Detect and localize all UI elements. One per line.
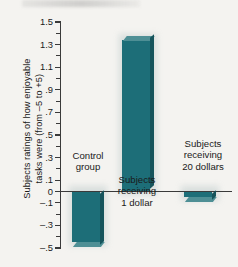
category-label-line: receiving bbox=[168, 149, 238, 160]
y-axis-minor-tick bbox=[56, 55, 60, 56]
y-axis-tick bbox=[55, 21, 61, 22]
y-axis-tick-label: 1.1 bbox=[40, 62, 53, 71]
bar bbox=[72, 192, 100, 243]
category-label-line: receiving bbox=[104, 185, 170, 196]
category-label: Subjectsreceiving1 dollar bbox=[104, 174, 170, 208]
bar-chart-figure: Subjects ratings of how enjoyable tasks … bbox=[0, 0, 238, 267]
y-axis-title-line-1: Subjects ratings of how enjoyable bbox=[22, 14, 34, 244]
y-axis-tick bbox=[55, 134, 61, 135]
y-axis-tick-label: .1 bbox=[45, 175, 53, 184]
bar-front-face bbox=[72, 192, 100, 243]
y-axis-tick-label: –.1 bbox=[40, 198, 53, 207]
y-axis-minor-tick bbox=[56, 78, 60, 79]
y-axis-tick bbox=[55, 112, 61, 113]
category-label: Subjectsreceiving20 dollars bbox=[168, 138, 238, 172]
y-axis-tick bbox=[55, 247, 61, 248]
y-axis-tick-label: 1.3 bbox=[40, 40, 53, 49]
y-axis-tick bbox=[55, 67, 61, 68]
y-axis-minor-tick bbox=[56, 123, 60, 124]
category-label-line: 20 dollars bbox=[168, 161, 238, 172]
y-axis-tick bbox=[55, 44, 61, 45]
bar bbox=[184, 192, 212, 198]
category-label-line: Control bbox=[56, 150, 120, 161]
category-label-line: 1 dollar bbox=[104, 197, 170, 208]
category-label: Controlgroup bbox=[56, 150, 120, 173]
y-axis-tick-label: –.5 bbox=[40, 243, 53, 252]
y-axis-tick-label: .9 bbox=[45, 85, 53, 94]
y-axis-minor-tick bbox=[56, 236, 60, 237]
bar bbox=[122, 40, 150, 191]
category-label-line: group bbox=[56, 161, 120, 172]
category-label-line: Subjects bbox=[104, 174, 170, 185]
y-axis-tick-label: .3 bbox=[45, 153, 53, 162]
y-axis-tick bbox=[55, 89, 61, 90]
scan-artifact bbox=[22, 0, 140, 7]
y-axis-tick bbox=[55, 202, 61, 203]
y-axis-minor-tick bbox=[56, 214, 60, 215]
bar-side-face bbox=[150, 34, 154, 189]
y-axis-tick-label: –.3 bbox=[40, 221, 53, 230]
y-axis-minor-tick bbox=[56, 101, 60, 102]
y-axis-minor-tick bbox=[56, 146, 60, 147]
plot-area: 1.51.31.1.9.7.5.3.10–.1–.3–.5Controlgrou… bbox=[60, 22, 232, 248]
y-axis-tick-label: .5 bbox=[45, 130, 53, 139]
bar-front-face bbox=[122, 40, 150, 191]
y-axis-tick bbox=[55, 180, 61, 181]
y-axis-tick bbox=[55, 225, 61, 226]
category-label-line: Subjects bbox=[168, 138, 238, 149]
y-axis-tick-label: .7 bbox=[45, 108, 53, 117]
y-axis-minor-tick bbox=[56, 33, 60, 34]
y-axis-tick-label: 1.5 bbox=[40, 17, 53, 26]
y-axis-tick-label: 0 bbox=[48, 187, 53, 196]
